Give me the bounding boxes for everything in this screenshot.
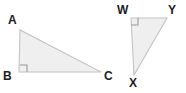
vertex-label-a: A (8, 14, 17, 26)
vertex-label-x: X (129, 77, 137, 89)
geometry-figure-canvas: A B C W Y X (0, 0, 186, 93)
triangle-abc-shape (19, 30, 101, 72)
vertex-label-w: W (117, 4, 128, 16)
vertex-label-b: B (3, 70, 12, 82)
vertex-label-y: Y (168, 4, 176, 16)
vertex-label-c: C (104, 70, 113, 82)
triangle-wxy-shape (131, 18, 167, 75)
triangles-diagram (0, 0, 186, 93)
